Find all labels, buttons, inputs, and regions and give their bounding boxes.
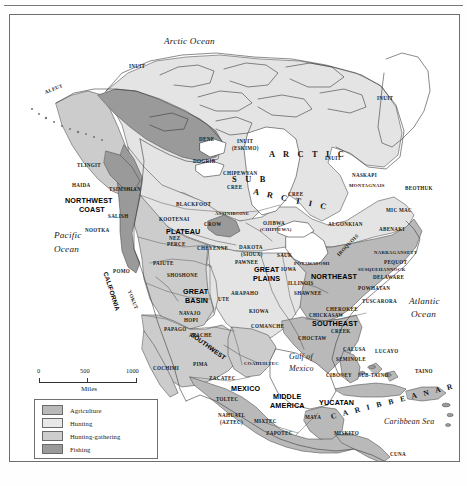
region-agriculture-hispaniola: [406, 387, 446, 401]
region-agriculture-cuba: [334, 383, 406, 397]
legend-label-agriculture: Agriculture: [70, 407, 102, 414]
legend-item-hunting-gathering: Hunting-gathering: [42, 431, 120, 441]
map-legend: Agriculture Hunting Hunting-gathering Fi…: [34, 399, 158, 459]
legend-swatch-fishing: [42, 444, 63, 455]
map-page: Arctic OceanPacificOceanAtlanticOceanGul…: [0, 0, 467, 486]
legend-swatch-hunting-gathering: [42, 431, 63, 442]
top-rule-divider: [4, 5, 463, 6]
map-frame: Arctic OceanPacificOceanAtlanticOceanGul…: [9, 14, 460, 462]
scale-bar: 0 500 1000 Miles: [30, 360, 148, 394]
scale-label-1000: 1000: [126, 367, 139, 374]
north-america-map: [10, 15, 459, 461]
legend-swatch-hunting: [42, 418, 63, 429]
region-agriculture-florida: [340, 351, 360, 383]
legend-swatch-agriculture: [42, 405, 63, 416]
scale-unit-label: Miles: [30, 385, 148, 393]
scale-tick-mid: [87, 378, 88, 383]
legend-label-fishing: Fishing: [70, 446, 91, 453]
legend-label-hunting: Hunting: [70, 420, 92, 427]
coastline-hudson-bay: [244, 127, 300, 215]
scale-label-0: 0: [37, 367, 40, 374]
scale-bar-line: [39, 378, 137, 383]
scale-label-500: 500: [80, 367, 90, 374]
legend-item-hunting: Hunting: [42, 418, 92, 428]
legend-label-hunting-gathering: Hunting-gathering: [70, 433, 120, 440]
legend-item-fishing: Fishing: [42, 444, 91, 454]
legend-item-agriculture: Agriculture: [42, 405, 102, 415]
region-agriculture-yucatan: [304, 407, 344, 439]
